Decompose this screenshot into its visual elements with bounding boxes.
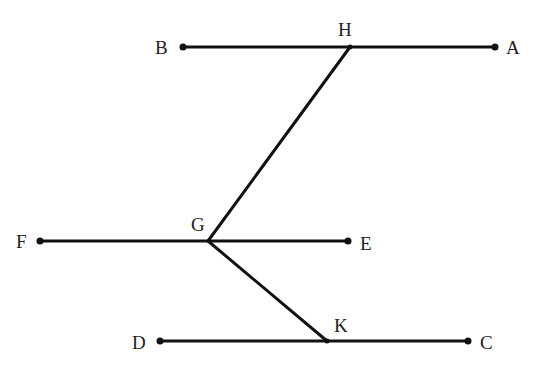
label-k: K (334, 315, 348, 336)
label-b: B (155, 37, 168, 58)
point-k-dot (325, 339, 330, 344)
geometry-diagram: B H A F G E D K C (0, 0, 539, 369)
point-f-dot (37, 238, 44, 245)
label-f: F (16, 231, 27, 252)
label-c: C (480, 332, 493, 353)
point-e-dot (345, 238, 352, 245)
label-a: A (506, 37, 520, 58)
point-b-dot (180, 44, 187, 51)
label-d: D (132, 332, 146, 353)
label-g: G (191, 214, 205, 235)
label-h: H (338, 19, 352, 40)
point-h-dot (348, 45, 353, 50)
point-d-dot (157, 338, 164, 345)
segment-hg (208, 47, 350, 241)
label-e: E (360, 233, 372, 254)
point-a-dot (492, 44, 499, 51)
segment-gk (208, 241, 327, 341)
point-c-dot (465, 338, 472, 345)
